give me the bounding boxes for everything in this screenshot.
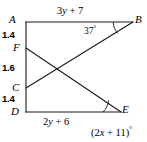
edge-label-ab: 3y + 7	[57, 6, 83, 17]
vertex-label-d: D	[11, 106, 19, 117]
edge-label-de-text: 2y + 6	[43, 116, 69, 127]
edge-label-ab-text: 3y + 7	[57, 5, 83, 16]
vertex-label-b: B	[135, 14, 142, 25]
vertex-label-c: C	[12, 82, 19, 93]
vertex-label-a: A	[9, 14, 16, 25]
vertex-label-f: F	[13, 42, 20, 53]
angle-label-b-value: 37	[84, 26, 94, 36]
edge-label-de: 2y + 6	[43, 117, 69, 128]
angle-label-b-degree: °	[94, 24, 97, 31]
segment-fe	[26, 48, 121, 112]
angle-label-e-value: (2x + 11)	[91, 127, 129, 138]
measure-fc: 1.6	[2, 63, 15, 73]
angle-label-b: 37°	[84, 25, 96, 37]
measure-cd: 1.4	[2, 94, 15, 104]
segment-cb	[26, 22, 133, 88]
measure-af: 1.4	[2, 30, 15, 40]
angle-label-e: (2x + 11)°	[91, 126, 132, 138]
angle-label-e-degree: °	[129, 125, 132, 133]
geometry-diagram: A B F C D E 1.4 1.6 1.4 3y + 7 2y + 6 37…	[0, 0, 147, 142]
geometry-figure-svg	[0, 0, 147, 142]
vertex-label-e: E	[122, 104, 129, 115]
